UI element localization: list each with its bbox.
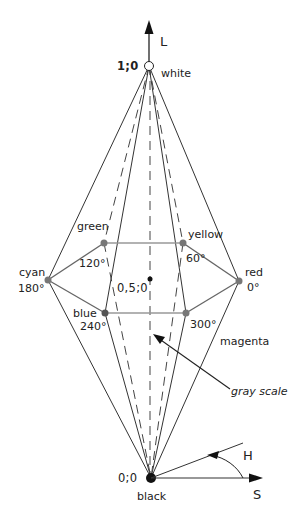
arrow-up-icon bbox=[145, 20, 154, 34]
hue-angle-cyan: 180° bbox=[18, 282, 45, 295]
hidden-cone-edges bbox=[104, 66, 183, 478]
hue-angle-yellow: 60° bbox=[186, 252, 206, 265]
hue-angle-blue: 240° bbox=[80, 320, 107, 333]
hue-points bbox=[45, 240, 243, 317]
hue-angle-magenta: 300° bbox=[190, 318, 217, 331]
axis-label-l: L bbox=[160, 34, 168, 49]
axis-label-h: H bbox=[243, 448, 253, 463]
hsl-double-cone-diagram: L bbox=[0, 0, 308, 523]
white-apex-point bbox=[145, 62, 154, 71]
white-label: white bbox=[161, 67, 191, 80]
black-label: black bbox=[137, 490, 167, 503]
point-green bbox=[101, 240, 108, 247]
hue-label-yellow: yellow bbox=[188, 228, 223, 241]
hue-label-red: red bbox=[245, 266, 263, 279]
black-coord-label: 0;0 bbox=[118, 471, 137, 485]
hue-label-magenta: magenta bbox=[220, 335, 269, 348]
hue-hexagon bbox=[48, 243, 239, 313]
white-coord-label: 1;0 bbox=[117, 59, 139, 73]
gray-scale-label: gray scale bbox=[231, 385, 288, 398]
point-cyan bbox=[45, 277, 52, 284]
lightness-axis: L bbox=[145, 20, 169, 62]
hue-angle-indicator: H bbox=[151, 443, 253, 478]
hue-label-cyan: cyan bbox=[19, 266, 45, 279]
center-coord-label: 0,5;0 bbox=[117, 281, 148, 295]
point-yellow bbox=[180, 240, 187, 247]
point-blue bbox=[102, 310, 109, 317]
hue-label-green: green bbox=[77, 220, 109, 233]
outer-cone-edges bbox=[48, 66, 239, 478]
arrow-icon bbox=[153, 334, 165, 344]
arrow-left-icon bbox=[207, 451, 219, 459]
point-red bbox=[236, 278, 243, 285]
center-point bbox=[148, 277, 153, 282]
saturation-axis: S bbox=[151, 474, 263, 503]
hue-angle-green: 120° bbox=[79, 257, 106, 270]
arrow-right-icon bbox=[249, 474, 263, 483]
axis-label-s: S bbox=[253, 487, 261, 502]
hue-label-blue: blue bbox=[73, 307, 97, 320]
hue-angle-red: 0° bbox=[247, 281, 260, 294]
point-magenta bbox=[183, 310, 190, 317]
